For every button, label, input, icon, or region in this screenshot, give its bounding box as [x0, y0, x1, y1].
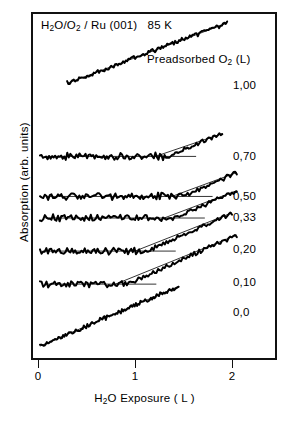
spectroscopy-figure: H2O/O2 / Ru (001) 85 K Preadsorbed O2 (L… [0, 0, 289, 431]
x-tick-1 [135, 360, 136, 368]
x-axis-title: H2O Exposure ( L ) [0, 392, 289, 406]
curve-label-0-70: 0,70 [233, 150, 256, 162]
x-tick-0 [38, 360, 39, 368]
curve-label-0-50: 0,50 [233, 190, 256, 202]
y-axis-title: Absorption (arb. units) [18, 72, 30, 292]
curve-label-0-0: 0,0 [233, 306, 250, 318]
curve-label-0-10: 0,10 [233, 276, 256, 288]
x-tick-2 [232, 360, 233, 368]
x-tick-label-1: 1 [132, 370, 138, 382]
trace-0-50 [40, 172, 237, 200]
x-tick-label-0: 0 [35, 370, 41, 382]
curve-label-0-20: 0,20 [233, 243, 256, 255]
curve-label-1-00: 1,00 [233, 79, 256, 91]
x-tick-label-2: 2 [229, 370, 235, 382]
trace-0-10 [40, 235, 237, 287]
trace-1-00 [67, 21, 227, 83]
curve-label-0-33: 0,33 [233, 211, 256, 223]
